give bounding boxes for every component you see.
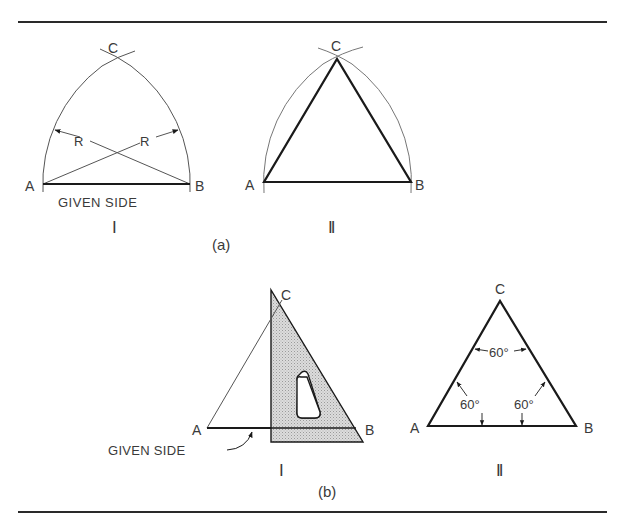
panel-b-step-2: 60° 60° 60° A B C II (410, 281, 593, 480)
given-side-label: GIVEN SIDE (58, 195, 137, 210)
equilateral-triangle-construction-figure: A B C R R GIVEN SIDE I (a) A B C II A B … (0, 0, 617, 518)
equilateral-triangle (428, 301, 576, 426)
angle-arrow-left-up (457, 382, 467, 396)
vertex-label-a: A (410, 420, 420, 436)
angle-arrow-top-left (475, 349, 488, 351)
step-roman-numeral: I (279, 461, 284, 480)
panel-a-step-2: A B C II (245, 38, 424, 237)
panel-a-step-1: A B C R R GIVEN SIDE I (25, 40, 204, 237)
vertex-label-b: B (195, 178, 204, 194)
radius-line-from-a (43, 143, 140, 184)
vertex-label-a: A (25, 178, 35, 194)
vertex-label-b: B (584, 420, 593, 436)
angle-label-top: 60° (489, 345, 509, 360)
given-side-leader (227, 432, 252, 450)
vertex-label-b: B (415, 177, 424, 193)
vertex-label-b: B (365, 422, 374, 438)
panel-a-caption: (a) (212, 236, 230, 253)
vertex-label-c: C (108, 40, 118, 56)
arc-from-a (100, 49, 190, 192)
vertex-label-c: C (281, 287, 291, 303)
vertex-label-c: C (495, 281, 505, 297)
radius-label-right: R (140, 134, 149, 149)
vertex-label-a: A (192, 422, 202, 438)
arc-from-a (318, 48, 411, 193)
step-roman-numeral: II (496, 461, 503, 480)
panel-b-step-1: A B C GIVEN SIDE I (108, 287, 374, 480)
vertex-label-a: A (245, 177, 255, 193)
radius-line-from-a-tail (156, 130, 178, 137)
arc-from-b (43, 51, 135, 192)
drafting-triangle-30-60 (271, 290, 363, 442)
arc-from-b (264, 47, 363, 193)
given-side-label: GIVEN SIDE (108, 443, 185, 458)
step-roman-numeral: I (112, 218, 117, 237)
angle-label-right: 60° (514, 397, 534, 412)
angle-arrow-right-up (535, 382, 545, 396)
radius-label-left: R (74, 134, 83, 149)
equilateral-triangle (264, 59, 411, 182)
vertex-label-c: C (331, 38, 341, 54)
panel-b-caption: (b) (318, 483, 336, 500)
angle-label-left: 60° (460, 397, 480, 412)
step-roman-numeral: II (328, 218, 335, 237)
angle-arrow-top-right (514, 349, 526, 351)
